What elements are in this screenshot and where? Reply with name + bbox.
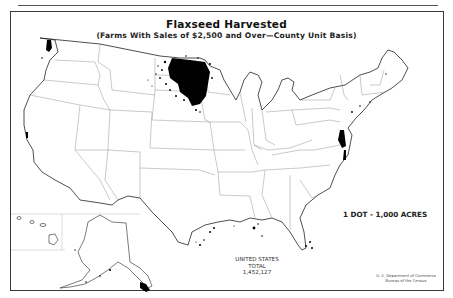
map-title: Flaxseed Harvested xyxy=(0,18,453,30)
alaska-inset xyxy=(60,215,152,288)
total-label-line1: UNITED STATES xyxy=(222,256,292,263)
us-total-block: UNITED STATES TOTAL 1,452,127 xyxy=(222,256,292,276)
hawaii-inset xyxy=(17,217,58,246)
source-credit: U. S. Department of Commerce Bureau of t… xyxy=(371,273,441,283)
dot-legend: 1 DOT - 1,000 ACRES xyxy=(343,210,427,219)
us-dot-map xyxy=(0,0,453,298)
flaxseed-dots-northern-plains xyxy=(147,55,213,113)
total-value: 1,452,127 xyxy=(222,269,292,276)
credit-line2: Bureau of the Census xyxy=(371,278,441,283)
inset-dividers xyxy=(11,214,140,250)
map-subtitle: (Farms With Sales of $2,500 and Over—Cou… xyxy=(0,31,453,40)
total-label-line2: TOTAL xyxy=(222,263,292,270)
